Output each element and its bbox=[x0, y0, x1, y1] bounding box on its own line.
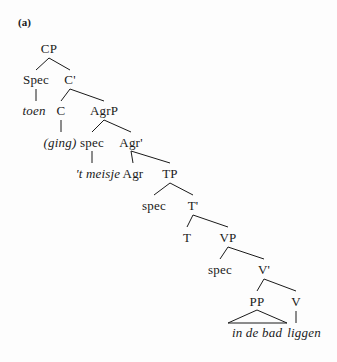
branch-tbar-to-vp bbox=[193, 215, 228, 227]
tree-node-agrbar: Agr' bbox=[119, 136, 142, 149]
branch-vp-to-vbar bbox=[228, 247, 264, 259]
tree-node-liggen: liggen bbox=[287, 326, 321, 339]
tree-node-agrp: AgrP bbox=[90, 104, 118, 117]
tree-node-vbar: V' bbox=[258, 263, 270, 276]
tree-node-spec-agrp: spec bbox=[80, 136, 104, 149]
tree-node-t: T bbox=[183, 231, 191, 244]
tree-node-spec-tp: spec bbox=[142, 199, 166, 212]
tree-node-pp: PP bbox=[250, 295, 265, 308]
branch-cbar-to-agrp bbox=[70, 89, 104, 101]
tree-node-indebad: in de bad bbox=[232, 326, 282, 339]
branch-cp-to-spec-cp bbox=[36, 58, 49, 70]
tree-node-cbar: C' bbox=[64, 73, 75, 86]
tree-node-spec-vp: spec bbox=[208, 263, 232, 276]
branch-vbar-to-v bbox=[264, 279, 296, 291]
tree-node-spec-cp: Spec bbox=[23, 73, 49, 86]
branch-agrp-to-agrbar bbox=[104, 120, 131, 132]
branch-agrbar-to-agr bbox=[131, 151, 133, 163]
triangle-pp-to-indebad bbox=[228, 310, 287, 323]
tree-node-vp: VP bbox=[219, 231, 236, 244]
branch-agrp-to-spec-agrp bbox=[92, 120, 104, 132]
branch-vp-to-spec-vp bbox=[220, 247, 228, 259]
tree-node-agr: Agr bbox=[123, 167, 144, 180]
branch-tbar-to-t bbox=[187, 215, 193, 227]
figure-canvas: (a) CPSpecC'toenCAgrP(ging)specAgr''t me… bbox=[0, 0, 337, 362]
tree-node-toen: toen bbox=[22, 104, 45, 117]
tree-node-tbar: T' bbox=[188, 199, 199, 212]
branch-cp-to-cbar bbox=[49, 58, 70, 70]
branch-tp-to-tbar bbox=[170, 183, 193, 195]
tree-node-cp: CP bbox=[41, 42, 57, 55]
tree-node-c: C bbox=[57, 104, 66, 117]
tree-node-ging: (ging) bbox=[44, 136, 77, 149]
branch-vbar-to-pp bbox=[257, 279, 264, 291]
branch-tp-to-spec-tp bbox=[154, 183, 170, 195]
tree-node-v: V bbox=[291, 295, 301, 308]
figure-label: (a) bbox=[18, 17, 31, 28]
tree-node-tp: TP bbox=[162, 167, 178, 180]
tree-node-tmeisje: 't meisje bbox=[76, 167, 121, 180]
branch-cbar-to-c bbox=[61, 89, 70, 101]
branch-agrbar-to-tp bbox=[131, 151, 170, 163]
